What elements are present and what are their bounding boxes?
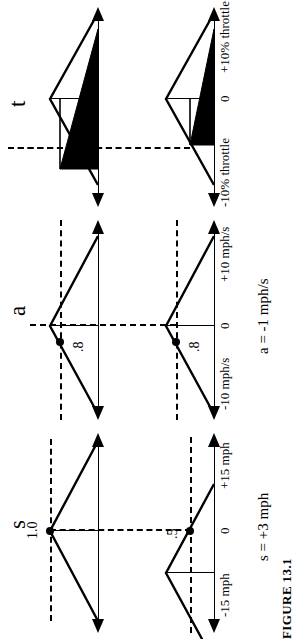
a-row2-readout-label: .8 [188,342,202,353]
s-row1-membership-triangle [0,426,146,639]
t-tick-negative: -10% throttle [218,138,231,207]
s-input-caption: s = +3 mph [256,493,271,561]
s-row2-readout-guide [190,437,192,633]
t-tick-zero: 0 [218,96,231,103]
a-tick-positive: +10 mph/s [218,227,231,282]
a-row1-readout-dot [56,338,64,346]
t-row2-clip-guide [8,147,190,149]
column-a: a .8 .8 -10 mp [0,213,291,426]
a-row2-readout-dot [172,338,180,346]
a-tick-negative: -10 mph/s [218,358,231,410]
column-t: t [0,0,291,213]
a-row1-readout-guide [60,220,62,420]
a-row1-membership-triangle [0,213,146,426]
column-s: s 1.0 [0,426,291,639]
s-tick-zero: 0 [218,528,231,535]
a-row1-readout-label: .8 [72,342,86,353]
s-tick-positive: +15 mph [218,442,231,489]
t-tick-positive: +10% throttle [218,1,231,73]
figure-number-caption: FIGURE 13.1 [280,558,291,639]
figure-canvas: s 1.0 [0,0,291,639]
figure-rotation-wrapper: s 1.0 [0,0,291,639]
s-row1-readout-label: 1.0 [26,522,40,540]
s-crisp-input-guide [50,529,191,531]
s-row1-plot: 1.0 [0,426,146,639]
t-row1-clipped-region [0,0,146,213]
a-tick-zero: 0 [218,323,231,330]
a-crisp-input-guide [30,324,176,326]
a-row2-readout-guide [176,220,178,420]
s-tick-negative: -15 mph [218,573,231,617]
a-row1-plot: .8 [0,213,146,426]
a-input-caption: a = -1 mph/s [256,278,271,354]
t-row1-plot [0,0,146,213]
